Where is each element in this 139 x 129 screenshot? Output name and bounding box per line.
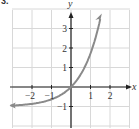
tick-label: 1 [62, 63, 67, 73]
tick-label: −1 [44, 91, 54, 101]
tick-label: 1 [88, 91, 93, 101]
tick-label: −2 [25, 91, 35, 101]
tick-label: 3 [62, 24, 67, 34]
y-axis-label: y [68, 0, 72, 9]
tick-label: 2 [62, 44, 67, 54]
graph: −2−112−1123 [0, 0, 139, 129]
axes [10, 12, 132, 128]
x-axis-label: x [132, 82, 136, 92]
tick-label: 2 [108, 91, 113, 101]
tick-label: −1 [57, 102, 67, 112]
